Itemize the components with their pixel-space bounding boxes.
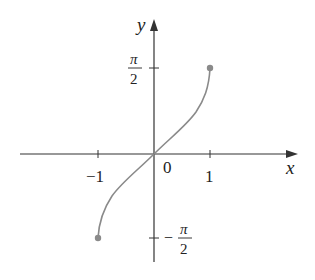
two-denominator: 2 xyxy=(130,71,138,87)
y-tick-label-neg-pi-half: − π 2 xyxy=(164,221,192,257)
minus-sign: − xyxy=(164,229,173,246)
two-denominator: 2 xyxy=(180,241,188,257)
endpoint-dot-lower xyxy=(95,235,101,241)
y-axis-arrow-icon xyxy=(150,19,158,31)
arcsin-graph: y x −1 0 1 π 2 − π 2 xyxy=(0,0,315,280)
x-tick-label-pos1: 1 xyxy=(205,167,214,186)
y-axis-label: y xyxy=(135,14,146,35)
pi-numerator: π xyxy=(180,221,188,237)
y-tick-label-pi-half: π 2 xyxy=(128,51,142,87)
origin-label: 0 xyxy=(163,158,172,177)
endpoint-dot-upper xyxy=(207,65,213,71)
x-tick-label-neg1: −1 xyxy=(86,167,104,186)
pi-numerator: π xyxy=(130,51,138,67)
x-axis-label: x xyxy=(285,157,295,178)
